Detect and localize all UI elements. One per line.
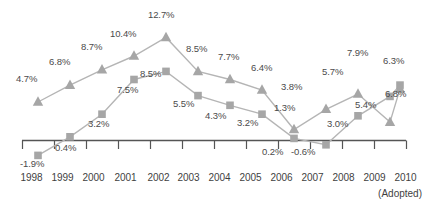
data-label-square-1999: 0.4% [55,142,76,153]
data-label-square-2002: 8.5% [140,68,161,79]
data-label-triangle-1998: 4.7% [16,73,37,84]
data-label-triangle-2007: 3.8% [281,81,302,92]
data-label-triangle-2006: 1.3% [274,102,295,113]
data-label-square-2000: 3.2% [88,118,109,129]
x-axis-label-1999: 1999 [47,172,78,183]
data-label-square-2001: 7.5% [117,84,138,95]
data-label-triangle-2010: 6.3% [383,55,404,66]
data-label-square-2007: -0.6% [291,146,315,157]
x-axis-label-2004: 2004 [204,172,235,183]
x-axis-label-2006: 2006 [266,172,297,183]
data-label-triangle-2008: 5.7% [322,66,343,77]
x-axis-ticks [23,141,407,150]
data-label-triangle-2009: 7.9% [347,47,368,58]
data-label-triangle-2002: 12.7% [148,9,174,20]
data-label-square-2004: 4.3% [205,110,226,121]
data-label-square-1998: -1.9% [20,158,44,169]
data-label-square-2005: 3.2% [237,117,258,128]
data-label-square-2006: 0.2% [262,146,283,157]
data-label-square-2010: 6.8% [385,88,406,99]
chart-container: 4.7% 6.8% 8.7% 10.4% 12.7% 8.5% 7.7% 6.4… [0,0,430,206]
x-axis-label-2007: 2007 [297,172,328,183]
data-label-triangle-2005: 6.4% [251,62,272,73]
data-label-triangle-2003: 8.5% [186,43,207,54]
axis-note-adopted: (Adopted) [378,188,422,199]
data-label-triangle-2001: 10.4% [110,28,136,39]
x-axis-label-2009: 2009 [359,172,390,183]
data-label-square-2008: 3.0% [327,118,348,129]
x-axis-label-2000: 2000 [78,172,109,183]
data-label-square-2003: 5.5% [173,98,194,109]
x-axis-label-2005: 2005 [235,172,266,183]
data-label-square-2009: 5.4% [355,99,376,110]
x-axis-label-2003: 2003 [173,172,204,183]
data-label-triangle-2000: 8.7% [81,41,102,52]
data-label-triangle-1999: 6.8% [49,56,70,67]
x-axis-label-2002: 2002 [143,172,174,183]
x-axis-label-2008: 2008 [328,172,359,183]
data-label-triangle-2004: 7.7% [218,51,239,62]
x-axis-label-1998: 1998 [16,172,47,183]
x-axis-label-2010: 2010 [390,172,421,183]
x-axis-label-2001: 2001 [110,172,141,183]
